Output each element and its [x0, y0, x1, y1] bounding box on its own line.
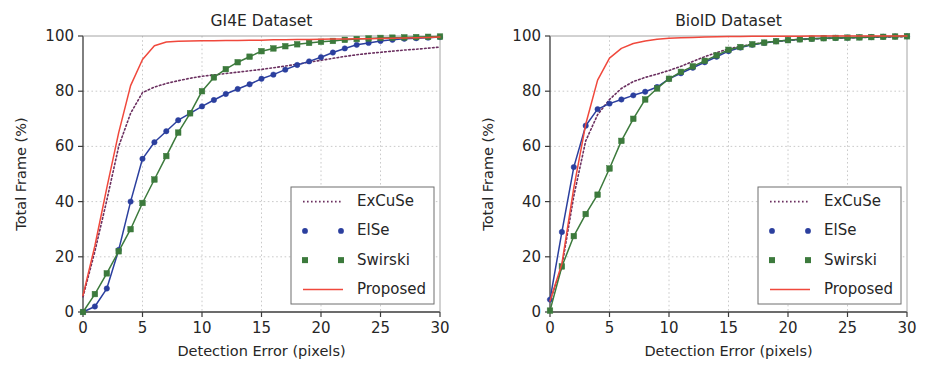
x-tick-label-5: 5 [138, 319, 148, 337]
legend-label-else: ElSe [357, 221, 389, 239]
y-tick-label-100: 100 [45, 27, 74, 45]
y-tick-label-40: 40 [55, 193, 74, 211]
legend-label-swirski: Swirski [824, 251, 877, 269]
y-tick-label-0: 0 [64, 303, 74, 321]
series-marker-swirski [571, 233, 577, 239]
series-marker-else [595, 106, 600, 111]
y-tick-label-20: 20 [55, 248, 74, 266]
series-marker-swirski [750, 41, 756, 47]
y-tick-label-40: 40 [522, 193, 541, 211]
series-marker-swirski [306, 40, 312, 46]
series-marker-else [619, 97, 624, 102]
series-marker-else [235, 86, 240, 91]
legend-label-else: ElSe [824, 221, 856, 239]
series-marker-swirski [773, 38, 779, 44]
series-marker-else [128, 199, 133, 204]
x-tick-label-15: 15 [252, 319, 271, 337]
series-marker-else [318, 55, 323, 60]
legend-swatch-marker-swirski [338, 257, 344, 263]
legend-label-proposed: Proposed [824, 280, 893, 298]
series-marker-swirski [797, 37, 803, 43]
series-marker-else [152, 140, 157, 145]
series-marker-swirski [809, 36, 815, 42]
series-marker-swirski [92, 291, 98, 297]
x-tick-label-30: 30 [430, 319, 449, 337]
series-marker-swirski [583, 211, 589, 217]
series-marker-else [330, 50, 335, 55]
x-tick-label-5: 5 [605, 319, 615, 337]
x-tick-label-30: 30 [897, 319, 916, 337]
series-marker-swirski [666, 76, 672, 82]
series-marker-swirski [140, 200, 146, 206]
series-marker-swirski [595, 192, 601, 198]
series-marker-else [271, 72, 276, 77]
series-marker-swirski [116, 248, 122, 254]
series-marker-swirski [152, 177, 158, 183]
series-marker-else [199, 104, 204, 109]
y-axis-title-bioid: Total Frame (%) [480, 117, 496, 231]
series-marker-else [643, 89, 648, 94]
series-marker-swirski [235, 59, 241, 65]
x-tick-label-0: 0 [545, 319, 555, 337]
y-tick-label-100: 100 [512, 27, 541, 45]
chart-svg-bioid: 051015202530020406080100BioID DatasetDet… [467, 0, 934, 366]
series-marker-else [607, 101, 612, 106]
chart-svg-gi4e: 051015202530020406080100GI4E DatasetDete… [0, 0, 467, 366]
series-marker-else [342, 46, 347, 51]
series-marker-swirski [619, 138, 625, 144]
x-tick-label-20: 20 [311, 319, 330, 337]
x-tick-label-10: 10 [659, 319, 678, 337]
series-marker-swirski [761, 40, 767, 46]
series-marker-swirski [869, 34, 875, 40]
series-marker-swirski [199, 88, 205, 94]
legend-bioid[interactable]: ExCuSeElSeSwirskiProposed [758, 187, 901, 304]
series-marker-swirski [342, 37, 348, 43]
series-marker-swirski [223, 66, 229, 72]
legend-label-proposed: Proposed [357, 280, 426, 298]
series-marker-swirski [247, 54, 253, 60]
series-marker-else [247, 82, 252, 87]
legend-swatch-marker-swirski [769, 257, 775, 263]
x-tick-label-15: 15 [719, 319, 738, 337]
series-marker-swirski [283, 43, 289, 49]
series-marker-swirski [187, 110, 193, 116]
chart-panel-bioid: 051015202530020406080100BioID DatasetDet… [467, 0, 934, 366]
series-marker-else [176, 117, 181, 122]
y-tick-label-60: 60 [522, 137, 541, 155]
series-marker-else [92, 304, 97, 309]
legend-gi4e[interactable]: ExCuSeElSeSwirskiProposed [291, 187, 434, 304]
series-marker-swirski [654, 86, 660, 92]
series-marker-else [223, 91, 228, 96]
legend-swatch-marker-else [769, 228, 775, 234]
series-marker-swirski [726, 47, 732, 53]
y-tick-label-80: 80 [55, 82, 74, 100]
series-marker-swirski [702, 58, 708, 64]
y-tick-label-60: 60 [55, 137, 74, 155]
series-marker-else [211, 97, 216, 102]
x-tick-label-0: 0 [78, 319, 88, 337]
series-marker-swirski [164, 153, 170, 159]
series-marker-swirski [294, 41, 300, 47]
series-marker-swirski [175, 130, 181, 136]
series-marker-else [283, 67, 288, 72]
series-marker-swirski [104, 271, 110, 277]
series-marker-else [631, 93, 636, 98]
x-tick-label-20: 20 [778, 319, 797, 337]
series-marker-swirski [678, 69, 684, 75]
series-marker-swirski [128, 226, 134, 232]
y-tick-label-0: 0 [531, 303, 541, 321]
x-axis-title-bioid: Detection Error (pixels) [644, 343, 812, 359]
y-axis-title-gi4e: Total Frame (%) [13, 117, 29, 231]
series-marker-else [559, 229, 564, 234]
legend-swatch-marker-else [805, 228, 811, 234]
series-marker-swirski [714, 53, 720, 59]
legend-swatch-marker-else [302, 228, 308, 234]
series-marker-else [571, 164, 576, 169]
series-marker-swirski [259, 48, 265, 54]
series-marker-else [295, 62, 300, 67]
series-marker-swirski [738, 44, 744, 50]
x-tick-label-10: 10 [192, 319, 211, 337]
legend-label-swirski: Swirski [357, 251, 410, 269]
series-marker-swirski [271, 46, 277, 52]
chart-title-gi4e: GI4E Dataset [211, 12, 313, 30]
